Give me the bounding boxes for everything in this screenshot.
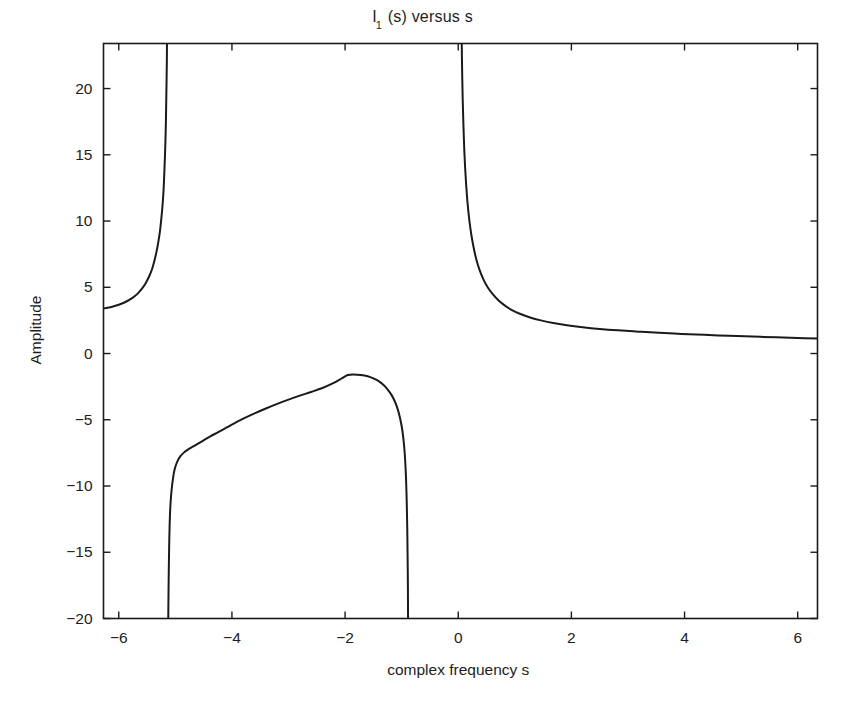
y-tick-label: 15 bbox=[75, 146, 92, 164]
figure-container: I1 (s) versus s 20151050−5−10−15−20 −6−4… bbox=[0, 0, 845, 709]
plot-frame bbox=[104, 44, 818, 619]
x-tick-label: 2 bbox=[567, 629, 576, 647]
plot-area bbox=[0, 0, 845, 709]
y-tick-label: −5 bbox=[75, 411, 93, 429]
curve-branch-right bbox=[462, 44, 818, 339]
y-tick-label: 0 bbox=[84, 345, 93, 363]
x-axis-label: complex frequency s bbox=[36, 661, 845, 679]
y-axis-label: Amplitude bbox=[27, 290, 45, 370]
x-tick-label: 6 bbox=[793, 629, 802, 647]
x-tick-label: 4 bbox=[680, 629, 689, 647]
y-tick-label: 10 bbox=[75, 212, 92, 230]
x-tick-label: 0 bbox=[454, 629, 463, 647]
x-tick-label: −2 bbox=[336, 629, 354, 647]
y-tick-label: 20 bbox=[75, 80, 92, 98]
tick-marks bbox=[104, 44, 818, 619]
curve-branch-middle bbox=[168, 374, 408, 618]
x-tick-label: −6 bbox=[110, 629, 128, 647]
x-tick-label: −4 bbox=[223, 629, 241, 647]
y-tick-label: −10 bbox=[66, 477, 92, 495]
curve-branch-left bbox=[104, 44, 167, 309]
data-curves bbox=[104, 44, 818, 619]
y-tick-label: 5 bbox=[84, 278, 93, 296]
y-tick-label: −20 bbox=[66, 610, 92, 628]
y-tick-label: −15 bbox=[66, 543, 92, 561]
